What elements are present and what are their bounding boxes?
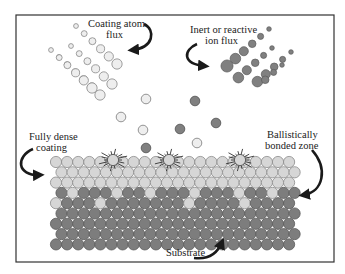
coating-atom [178, 167, 189, 178]
substrate-atom [245, 208, 256, 219]
substrate-atom [134, 208, 145, 219]
substrate-atom [289, 187, 300, 198]
coating-flux-atom [97, 45, 105, 53]
substrate-atom [223, 187, 234, 198]
substrate-atom [95, 218, 106, 229]
substrate-atom [250, 239, 261, 250]
substrate-atom [261, 198, 272, 209]
substrate-atom [189, 208, 200, 219]
ion-atom [141, 143, 151, 153]
ion-flux-atom [280, 63, 285, 68]
ion-flux-atom [258, 33, 264, 39]
substrate-atom [84, 198, 95, 209]
ion-flux-atom [289, 50, 294, 55]
coating-atom [206, 156, 217, 167]
substrate-atom [223, 229, 234, 240]
coating-atom [234, 187, 245, 198]
substrate-atom [150, 198, 161, 209]
ion-flux-atom [261, 52, 267, 58]
coating-atom [189, 167, 200, 178]
substrate-atom [56, 187, 67, 198]
coating-atom [145, 167, 156, 178]
substrate-atom [250, 218, 261, 229]
substrate-atom [89, 229, 100, 240]
substrate-atom [145, 229, 156, 240]
substrate-atom [272, 218, 283, 229]
substrate-atom [267, 229, 278, 240]
substrate-atom [206, 198, 217, 209]
substrate-atom [284, 198, 295, 209]
ion-flux-atom [221, 60, 233, 72]
substrate-atom [167, 229, 178, 240]
dense-coating-label-2: coating [36, 142, 68, 153]
substrate-atom [50, 239, 61, 250]
coating-atom [184, 198, 195, 209]
substrate-atom [128, 218, 139, 229]
coating-atom [267, 167, 278, 178]
substrate-atom [195, 218, 206, 229]
coating-lattice [50, 156, 300, 250]
coating-atom [67, 167, 78, 178]
substrate-atom [278, 208, 289, 219]
coating-flux-atom [84, 58, 91, 65]
substrate-atom [234, 208, 245, 219]
substrate-atom [239, 239, 250, 250]
substrate-atom [128, 239, 139, 250]
coating-atom [95, 198, 106, 209]
coating-flux-atom [81, 31, 87, 37]
substrate-atom [289, 208, 300, 219]
substrate-atom [95, 239, 106, 250]
coating-atom [56, 167, 67, 178]
coating-flux-atom [104, 52, 113, 61]
substrate-atom [123, 229, 134, 240]
coating-atom [278, 167, 289, 178]
coating-atom [272, 156, 283, 167]
coating-atom [217, 156, 228, 167]
ion-flux-label: Inert or reactive [190, 24, 257, 35]
substrate-atom [250, 198, 261, 209]
substrate-atom [200, 187, 211, 198]
substrate-atom [100, 229, 111, 240]
coating-atom [84, 156, 95, 167]
coating-atom [145, 187, 156, 198]
substrate-atom [245, 187, 256, 198]
substrate-atom [106, 198, 117, 209]
substrate-atom [239, 218, 250, 229]
coating-atom [139, 156, 150, 167]
coating-atom [161, 177, 172, 188]
substrate-atom [89, 187, 100, 198]
substrate-atom [73, 239, 84, 250]
substrate-atom [117, 239, 128, 250]
substrate-atom [217, 218, 228, 229]
substrate-atom [178, 208, 189, 219]
substrate-atom [128, 198, 139, 209]
substrate-atom [211, 208, 222, 219]
substrate-atom [173, 218, 184, 229]
substrate-atom [211, 229, 222, 240]
coating-flux-atom [74, 24, 79, 29]
coating-atom [239, 198, 250, 209]
substrate-atom [111, 208, 122, 219]
substrate-atom [123, 208, 134, 219]
coating-atom [89, 167, 100, 178]
substrate-atom [184, 218, 195, 229]
substrate-atom [67, 208, 78, 219]
substrate-atom [56, 208, 67, 219]
coating-atom [195, 156, 206, 167]
substrate-atom [256, 208, 267, 219]
coating-atom [150, 177, 161, 188]
coating-atom [223, 167, 234, 178]
substrate-atom [106, 218, 117, 229]
coating-atom [184, 177, 195, 188]
coating-atom [62, 177, 73, 188]
substrate-atom [117, 218, 128, 229]
coating-atom [95, 177, 106, 188]
coating-atom [189, 187, 200, 198]
coating-flux-label: Coating atom [88, 18, 145, 29]
substrate-atom [62, 198, 73, 209]
coating-atom [73, 156, 84, 167]
ion-flux-atom [252, 76, 263, 87]
ion-flux-atom [280, 56, 286, 62]
coating-atom [123, 167, 134, 178]
coating-flux-atom [76, 51, 82, 57]
